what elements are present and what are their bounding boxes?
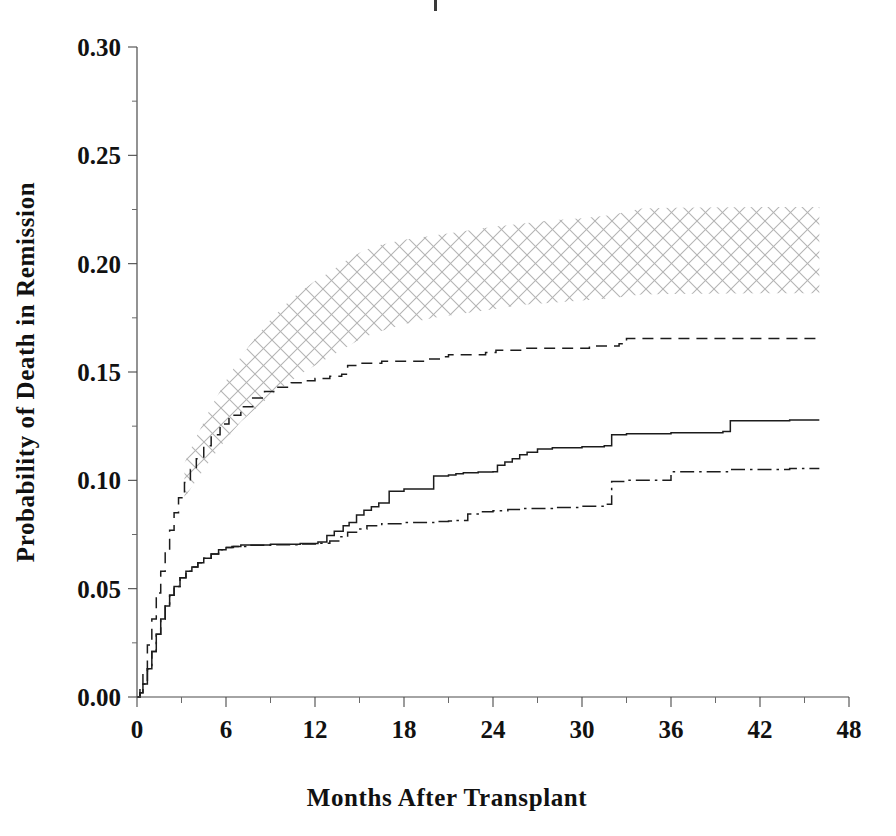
y-tick-label: 0.00 [77, 684, 121, 711]
scan-artifact-mark [434, 0, 437, 11]
confidence-band-group [184, 207, 819, 498]
y-tick-label: 0.15 [77, 359, 121, 386]
x-tick-label: 6 [220, 716, 233, 743]
x-tick-label: 42 [748, 716, 773, 743]
kaplan-meier-figure: 0.000.050.100.150.200.250.30 06121824303… [0, 0, 896, 836]
x-tick-label: 48 [837, 716, 862, 743]
y-tick-label: 0.30 [77, 34, 121, 61]
y-tick-label: 0.20 [77, 251, 121, 278]
chart-canvas: 0.000.050.100.150.200.250.30 06121824303… [0, 0, 896, 836]
x-tick-label: 0 [131, 716, 144, 743]
y-tick-label: 0.10 [77, 467, 121, 494]
x-tick-label: 24 [481, 716, 507, 743]
middle-solid-curve [137, 420, 819, 697]
x-tick-label: 12 [303, 716, 328, 743]
x-axis-ticks [137, 697, 849, 707]
y-axis-ticks [128, 47, 137, 697]
x-axis-tick-labels: 0612182430364248 [131, 716, 862, 743]
x-tick-label: 30 [570, 716, 595, 743]
x-axis-title: Months After Transplant [307, 784, 588, 811]
lower-dashdot-curve [137, 468, 819, 697]
y-tick-label: 0.25 [77, 142, 121, 169]
y-axis-tick-labels: 0.000.050.100.150.200.250.30 [77, 34, 121, 711]
x-tick-label: 36 [659, 716, 684, 743]
x-tick-label: 18 [392, 716, 417, 743]
crosshatched-confidence-band [184, 207, 819, 498]
y-axis-title: Probability of Death in Remission [12, 182, 39, 562]
y-tick-label: 0.05 [77, 576, 121, 603]
